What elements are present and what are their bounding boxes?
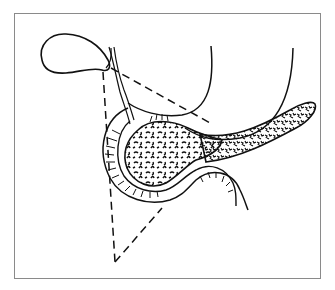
stomach-inner-curve <box>128 46 212 116</box>
pancreas-tail <box>200 102 316 162</box>
anatomical-diagram <box>0 0 335 290</box>
bile-duct-2 <box>114 47 134 120</box>
gallbladder <box>41 34 109 73</box>
